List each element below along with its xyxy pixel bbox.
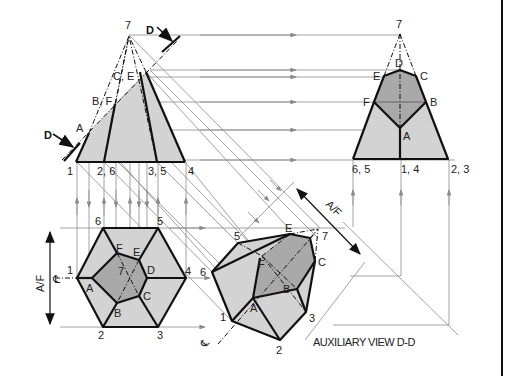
auxiliary-view-caption: AUXILIARY VIEW D-D [313,336,415,348]
dimension-label-af: A/F [34,275,46,292]
side-view-extension-lines [343,160,458,335]
miter-line [343,222,458,335]
top-label-b: B [114,307,121,319]
top-label-2: 2 [98,329,104,341]
side-label-f: F [363,96,370,108]
front-label-3-5: 3, 5 [148,165,166,177]
top-label-f: F [116,242,123,254]
technical-drawing: D D 7 C, E B, F A 1 2, 6 3, 5 4 7 D E C … [0,0,506,376]
top-label-e: E [133,246,140,258]
aux-label-6: 6 [200,266,206,278]
aux-dimension-label-af: A/F [324,198,345,219]
top-label-7: 7 [118,265,124,277]
top-label-c: C [143,290,151,302]
side-label-7: 7 [396,18,402,30]
aux-label-c: C [318,256,326,268]
section-marker-d-lower: D [44,129,52,141]
top-label-5: 5 [157,215,163,227]
top-label-3: 3 [157,329,163,341]
aux-label-f: F [258,258,265,270]
side-label-e: E [373,70,380,82]
top-label-4: 4 [185,265,191,277]
aux-label-3: 3 [309,312,315,324]
section-marker-d-upper: D [146,24,154,36]
front-label-a: A [76,122,84,134]
front-view [53,27,185,162]
centerline-symbol: ℄ [52,273,60,285]
side-label-c: C [420,70,428,82]
top-label-d: D [147,264,155,276]
aux-label-b: B [283,283,290,295]
aux-centerline-symbol: ℄ [197,336,211,350]
front-label-c-e: C, E [113,70,134,82]
side-label-b: B [430,96,437,108]
aux-label-5: 5 [234,230,240,242]
side-label-a: A [403,130,411,142]
aux-label-a: A [250,302,258,314]
front-label-b-f: B, F [92,95,112,107]
side-label-2-3: 2, 3 [451,163,469,175]
top-label-1: 1 [67,264,73,276]
aux-label-2: 2 [276,344,282,356]
side-label-1-4: 1, 4 [401,163,419,175]
side-label-d: D [395,57,403,69]
top-label-a: A [86,282,94,294]
front-label-1: 1 [67,165,73,177]
front-label-4: 4 [188,165,194,177]
front-label-7: 7 [125,19,131,31]
top-label-6: 6 [95,215,101,227]
aux-label-e: E [285,222,292,234]
side-label-6-5: 6, 5 [352,163,370,175]
aux-label-7: 7 [322,230,328,242]
aux-label-1: 1 [220,311,226,323]
front-label-2-6: 2, 6 [97,165,115,177]
